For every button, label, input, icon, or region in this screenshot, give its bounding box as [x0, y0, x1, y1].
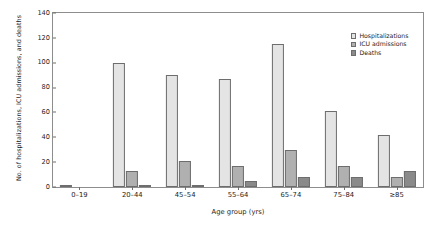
x-tick-label: 55–64 [228, 192, 249, 199]
legend-item[interactable]: ICU admissions [351, 41, 408, 47]
bar-hospitalizations[interactable] [378, 135, 390, 187]
bar-group-bars [112, 13, 152, 187]
bar-deaths[interactable] [139, 185, 151, 187]
x-tick-mark [291, 187, 292, 190]
legend-item[interactable]: Deaths [351, 50, 408, 56]
y-tick-label: 80 [42, 84, 53, 91]
bar-icu-admissions[interactable] [232, 166, 244, 187]
legend-swatch-icon [351, 33, 356, 38]
bar-hospitalizations[interactable] [60, 185, 72, 187]
bar-hospitalizations[interactable] [219, 79, 231, 187]
y-tick-label: 140 [37, 10, 53, 17]
bar-group: 55–64 [212, 13, 265, 187]
x-tick-mark [238, 187, 239, 190]
x-tick-mark [344, 187, 345, 190]
bar-deaths[interactable] [245, 181, 257, 187]
bar-hospitalizations[interactable] [325, 111, 337, 187]
y-tick-label: 40 [42, 134, 53, 141]
bar-icu-admissions[interactable] [391, 177, 403, 187]
x-tick-label: 45–54 [175, 192, 196, 199]
x-tick-mark [79, 187, 80, 190]
bar-icu-admissions[interactable] [338, 166, 350, 187]
x-tick-label: 75–84 [333, 192, 354, 199]
bar-chart-figure: No. of hospitalizations, ICU admissions,… [0, 0, 439, 231]
legend-label: ICU admissions [359, 41, 406, 47]
bar-hospitalizations[interactable] [166, 75, 178, 187]
bar-group-bars [165, 13, 205, 187]
bar-group: 0–19 [53, 13, 106, 187]
x-tick-label: 20–44 [122, 192, 143, 199]
bar-hospitalizations[interactable] [272, 44, 284, 187]
x-tick-label: 0–19 [71, 192, 87, 199]
bar-icu-admissions[interactable] [285, 150, 297, 187]
y-tick-label: 60 [42, 109, 53, 116]
x-tick-label: 65–74 [281, 192, 302, 199]
bar-group-bars [218, 13, 258, 187]
y-axis-title: No. of hospitalizations, ICU admissions,… [15, 5, 23, 191]
bar-group-bars [59, 13, 99, 187]
bar-icu-admissions[interactable] [126, 171, 138, 187]
bar-group: 65–74 [264, 13, 317, 187]
bar-deaths[interactable] [192, 185, 204, 187]
legend-label: Deaths [359, 50, 381, 56]
x-tick-mark [185, 187, 186, 190]
x-tick-mark [132, 187, 133, 190]
chart-legend: HospitalizationsICU admissionsDeaths [351, 33, 408, 56]
bar-hospitalizations[interactable] [113, 63, 125, 187]
bar-group: 20–44 [106, 13, 159, 187]
legend-swatch-icon [351, 50, 356, 55]
bar-group: 45–54 [159, 13, 212, 187]
y-tick-label: 0 [46, 184, 53, 191]
x-tick-label: ≥85 [389, 192, 403, 199]
x-tick-mark [397, 187, 398, 190]
bar-group-bars [271, 13, 311, 187]
y-tick-label: 100 [37, 59, 53, 66]
legend-item[interactable]: Hospitalizations [351, 33, 408, 39]
bar-icu-admissions[interactable] [179, 161, 191, 187]
y-tick-label: 20 [42, 159, 53, 166]
y-tick-label: 120 [37, 35, 53, 42]
x-axis-title: Age group (yrs) [52, 208, 424, 216]
bar-deaths[interactable] [298, 177, 310, 187]
legend-swatch-icon [351, 42, 356, 47]
bar-deaths[interactable] [404, 171, 416, 187]
bar-deaths[interactable] [351, 177, 363, 187]
legend-label: Hospitalizations [359, 33, 408, 39]
